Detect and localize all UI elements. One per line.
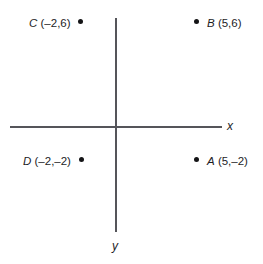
point-marker-b [194, 19, 199, 24]
point-coords-c: (–2,6) [41, 17, 71, 29]
point-marker-a [194, 157, 199, 162]
point-marker-c [78, 19, 83, 24]
point-label-d: D (–2,–2) [23, 156, 71, 168]
point-label-b: B (5,6) [207, 18, 242, 30]
y-axis-line [115, 18, 117, 232]
point-marker-d [79, 157, 84, 162]
point-coords-d: (–2,–2) [35, 155, 71, 167]
point-coords-a: (5,–2) [218, 155, 248, 167]
point-coords-b: (5,6) [218, 17, 242, 29]
point-name-b: B [207, 17, 215, 29]
point-label-a: A (5,–2) [207, 156, 248, 168]
coordinate-plane-figure: x y C (–2,6) B (5,6) D (–2,–2) A (5,–2) [0, 0, 263, 264]
x-axis-label: x [227, 120, 233, 132]
point-label-c: C (–2,6) [29, 18, 71, 30]
y-axis-label: y [112, 240, 118, 252]
point-name-a: A [207, 155, 215, 167]
